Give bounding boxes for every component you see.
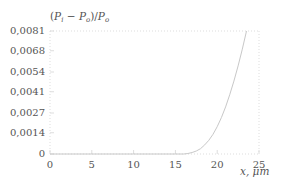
- x-tick-labels: 0510152025: [47, 150, 266, 170]
- x-tick-label: 15: [169, 159, 182, 170]
- x-tick-label: 20: [211, 159, 224, 170]
- chart: 00,00140,00270,00410,00540,00680,0081 05…: [0, 0, 284, 184]
- y-axis-title: (Pi − Po)/Po: [50, 10, 109, 24]
- y-tick-label: 0,0081: [10, 25, 45, 36]
- x-tick-label: 0: [47, 159, 53, 170]
- y-tick-labels: 00,00140,00270,00410,00540,00680,0081: [10, 25, 54, 159]
- y-tick-label: 0: [39, 148, 45, 159]
- y-tick-label: 0,0068: [10, 45, 45, 56]
- x-tick-label: 5: [89, 159, 95, 170]
- series-line: [50, 31, 247, 154]
- y-tick-label: 0,0054: [10, 66, 45, 77]
- plot-frame: [50, 31, 259, 154]
- y-tick-label: 0,0014: [10, 127, 45, 138]
- x-axis-title: x, μm: [240, 165, 269, 177]
- y-tick-label: 0,0041: [10, 86, 45, 97]
- x-tick-label: 10: [127, 159, 140, 170]
- series-lines: [50, 31, 247, 154]
- y-tick-label: 0,0027: [10, 107, 45, 118]
